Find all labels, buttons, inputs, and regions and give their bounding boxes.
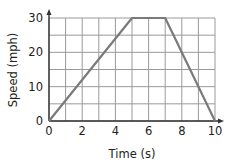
y-tick-label: 10	[28, 80, 43, 94]
x-tick-label: 0	[45, 124, 52, 138]
y-tick-label: 20	[28, 45, 43, 59]
x-tick-label: 4	[112, 124, 119, 138]
y-tick-label: 30	[28, 11, 43, 25]
x-tick-label: 10	[208, 124, 223, 138]
y-tick-labels: 0102030	[28, 11, 43, 128]
axes	[47, 9, 225, 124]
x-tick-label: 2	[79, 124, 86, 138]
x-tick-labels: 0246810	[45, 124, 222, 138]
y-axis-label: Speed (mph)	[6, 33, 20, 107]
speed-time-chart: 0246810 0102030 Time (s) Speed (mph)	[0, 0, 236, 163]
y-axis-arrow-icon	[47, 9, 52, 15]
x-tick-label: 6	[145, 124, 152, 138]
x-tick-label: 8	[178, 124, 185, 138]
x-axis-label: Time (s)	[108, 147, 156, 161]
x-axis-arrow-icon	[218, 119, 224, 124]
y-tick-label: 0	[36, 114, 43, 128]
